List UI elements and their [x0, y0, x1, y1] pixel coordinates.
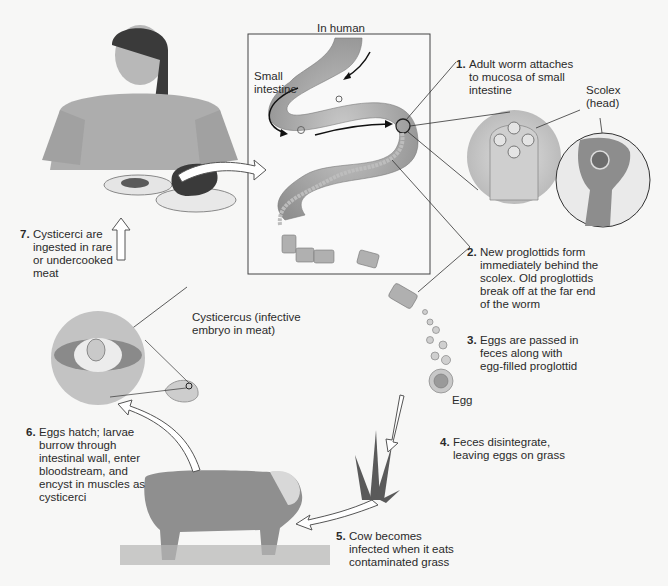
- region-label-in-human: In human: [317, 22, 365, 35]
- egg-trail: [423, 310, 454, 394]
- step-text: Cow becomes infected when it eats contam…: [336, 530, 536, 569]
- step-text: Cysticerci are ingested in rare or under…: [20, 228, 130, 280]
- step-number: 4.: [440, 436, 450, 449]
- step-4: 4. Feces disintegrate, leaving eggs on g…: [440, 436, 640, 462]
- step-text: Feces disintegrate, leaving eggs on gras…: [440, 436, 640, 462]
- step-number: 6.: [26, 426, 36, 439]
- step-2: 2. New proglottids form immediately behi…: [467, 246, 667, 311]
- small-intestine-label: Small intestine: [254, 70, 297, 96]
- person-eating-illustration: [42, 25, 238, 212]
- step-7: 7. Cysticerci are ingested in rare or un…: [20, 228, 130, 280]
- step-1: 1. Adult worm attaches to mucosa of smal…: [456, 58, 656, 97]
- step-5: 5. Cow becomes infected when it eats con…: [336, 530, 536, 569]
- step-number: 5.: [336, 530, 346, 543]
- egg-label: Egg: [452, 394, 472, 407]
- step-3: 3. Eggs are passed in feces along with e…: [467, 334, 667, 373]
- step-text: New proglottids form immediately behind …: [467, 246, 667, 311]
- step-number: 7.: [20, 228, 30, 241]
- step-number: 1.: [456, 58, 466, 71]
- cysticercus-label: Cysticercus (infective embryo in meat): [192, 311, 301, 337]
- scolex-drawing: [467, 110, 650, 227]
- step-text: Eggs are passed in feces along with egg-…: [467, 334, 667, 373]
- step-text: Eggs hatch; larvae burrow through intest…: [26, 426, 176, 504]
- step-text: Adult worm attaches to mucosa of small i…: [456, 58, 656, 97]
- step-6: 6. Eggs hatch; larvae burrow through int…: [26, 426, 176, 504]
- step-number: 2.: [467, 246, 477, 259]
- step-number: 3.: [467, 334, 477, 347]
- cysticercus-magnified: [51, 311, 198, 405]
